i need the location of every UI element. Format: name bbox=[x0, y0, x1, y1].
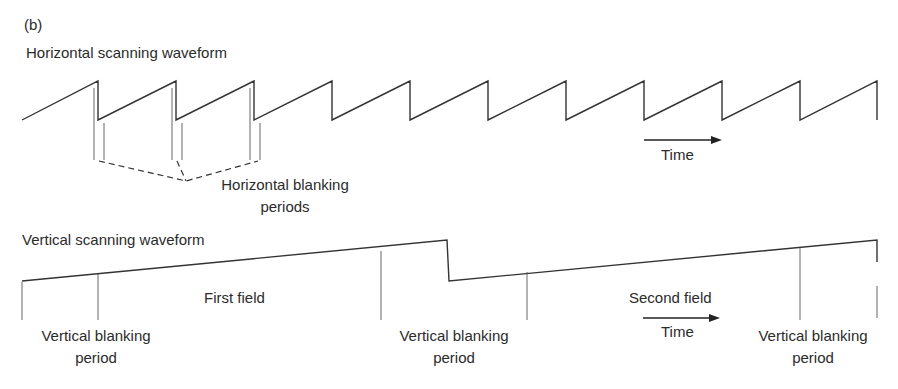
first-field-label: First field bbox=[204, 289, 265, 307]
vertical-time-label: Time bbox=[661, 323, 694, 341]
horizontal-blanking-markers bbox=[94, 88, 260, 160]
panel-label: (b) bbox=[24, 16, 42, 34]
horizontal-waveform-title: Horizontal scanning waveform bbox=[26, 44, 227, 62]
vertical-blanking-label-1: Vertical blanking period bbox=[26, 327, 166, 367]
horizontal-time-label: Time bbox=[661, 146, 694, 164]
horizontal-sawtooth-waveform bbox=[22, 81, 877, 120]
horizontal-time-arrow bbox=[644, 136, 722, 144]
second-field-label: Second field bbox=[629, 289, 712, 307]
vertical-waveform-title: Vertical scanning waveform bbox=[22, 231, 205, 249]
vertical-blanking-label-3: Vertical blanking period bbox=[743, 327, 883, 367]
horizontal-blanking-label: Horizontal blanking periods bbox=[210, 176, 360, 216]
vertical-time-arrow bbox=[643, 314, 720, 322]
vertical-blanking-label-2: Vertical blanking period bbox=[384, 327, 524, 367]
